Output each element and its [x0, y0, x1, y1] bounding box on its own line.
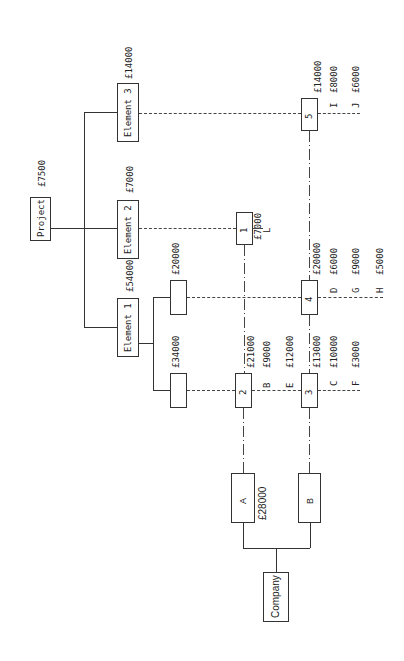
node-3-value: £13000 [313, 335, 322, 368]
node-4-item-h-code: H [376, 288, 385, 293]
node-3-item-f-value: £3000 [352, 341, 361, 368]
node-3-id: 3 [305, 390, 314, 395]
node-4-item-h-value: £5000 [376, 248, 385, 275]
node-5-item-j-value: £6000 [352, 66, 361, 93]
company-label: Company [271, 575, 281, 618]
unit-a-value: £28000 [258, 487, 268, 520]
element-3-value: £14000 [125, 46, 134, 79]
link-node4-node3 [309, 315, 310, 373]
unit-b-box[interactable]: B [298, 473, 321, 523]
node-4-items-link [318, 297, 383, 298]
node-5-item-i-value: £8000 [330, 66, 339, 93]
link-node2-node3 [252, 390, 301, 391]
element-1-sub-1-value: £20000 [172, 242, 181, 275]
node-5-box[interactable]: 5 [301, 98, 318, 131]
element1-connector [84, 327, 117, 328]
element-3-box[interactable]: Element 3 [117, 83, 139, 142]
sub2-connector [153, 390, 170, 391]
node-1-id: 1 [240, 228, 249, 233]
node-5-item-j-code: J [352, 103, 361, 108]
node-5-item-i-code: I [330, 103, 339, 108]
company-connector [276, 548, 277, 572]
unit-a-box[interactable]: A [231, 473, 255, 523]
node-5-value: £14000 [314, 60, 323, 93]
elements-spine [84, 112, 85, 327]
node-3-item-f-code: F [352, 381, 361, 386]
sub1-connector [153, 297, 170, 298]
unit-b-label: B [306, 498, 315, 504]
node-1-box[interactable]: 1 [236, 212, 253, 245]
node-3-item-c-code: C [330, 381, 339, 386]
project-connector [50, 228, 84, 229]
node-3-box[interactable]: 3 [301, 373, 318, 408]
element-2-box[interactable]: Element 2 [117, 200, 139, 259]
unit-b-connector [310, 523, 311, 548]
element1-sub-spine [153, 297, 154, 390]
link-node3-unit-b [309, 408, 310, 473]
link-element3-node5 [139, 113, 301, 114]
node-2-item-e-value: £12000 [286, 335, 295, 368]
node-5-items-link [318, 113, 360, 114]
node-2-item-b-code: B [263, 383, 272, 388]
node-2-item-b-value: £9000 [263, 341, 272, 368]
node-3-items-link [318, 390, 360, 391]
link-node2-unit-a [243, 408, 244, 473]
node-3-item-c-value: £10000 [330, 335, 339, 368]
project-box[interactable]: Project [30, 197, 51, 241]
node-4-box[interactable]: 4 [301, 280, 318, 315]
company-box[interactable]: Company [263, 572, 289, 622]
node-2-box[interactable]: 2 [235, 373, 252, 408]
element-1-label: Element 1 [124, 303, 133, 352]
node-1-item-code: L [263, 228, 272, 233]
node-1-value: £7000 [254, 213, 263, 240]
element-1-sub-2-value: £34000 [172, 335, 181, 368]
element-1-sub-1-box[interactable] [170, 280, 187, 315]
node-4-item-d-value: £6000 [330, 248, 339, 275]
element1-sub-connector [138, 343, 153, 344]
project-label: Project [37, 199, 46, 237]
element-2-label: Element 2 [124, 205, 133, 254]
unit-a-label: A [239, 498, 248, 504]
node-4-item-g-value: £9000 [352, 248, 361, 275]
node-2-value: £21000 [247, 335, 256, 368]
element-2-value: £7000 [126, 166, 135, 193]
element2-connector [84, 228, 117, 229]
project-value: £7500 [38, 160, 47, 187]
node-4-id: 4 [305, 297, 314, 302]
node-4-item-g-code: G [352, 288, 361, 293]
link-element2-node1 [139, 228, 236, 229]
element-3-label: Element 3 [124, 88, 133, 137]
element-1-sub-2-box[interactable] [170, 373, 187, 408]
unit-a-connector [243, 523, 244, 548]
element3-connector [84, 112, 117, 113]
node-4-value: £20000 [313, 242, 322, 275]
link-node5-node4 [309, 131, 310, 280]
node-2-id: 2 [239, 390, 248, 395]
link-sub2-node2 [187, 390, 235, 391]
node-5-id: 5 [305, 114, 314, 119]
node-4-item-d-code: D [330, 288, 339, 293]
node-2-item-e-code: E [286, 383, 295, 388]
element-1-value: £54000 [126, 259, 135, 292]
element-1-box[interactable]: Element 1 [117, 298, 139, 357]
link-node1-node2 [244, 245, 245, 373]
